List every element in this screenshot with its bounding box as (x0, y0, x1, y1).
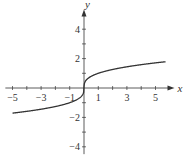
y-tick-label: 4 (75, 24, 80, 35)
x-axis-label: x (177, 82, 183, 94)
y-axis-arrow-icon (82, 9, 87, 16)
curve (13, 62, 166, 113)
x-tick-label: −1 (64, 92, 75, 103)
y-tick-label: 2 (75, 53, 80, 64)
axes (5, 9, 174, 154)
x-tick-label: 3 (124, 92, 129, 103)
x-tick-label: 5 (153, 92, 158, 103)
y-tick-label: −4 (69, 141, 80, 152)
tick-labels: −5−3−113542−2−4xy (7, 0, 182, 152)
function-plot: −5−3−113542−2−4xy (0, 0, 184, 159)
x-axis-arrow-icon (168, 86, 175, 91)
x-tick-label: −5 (7, 92, 18, 103)
cube-root-curve (13, 62, 166, 113)
y-axis-label: y (84, 0, 90, 10)
x-tick-label: −3 (36, 92, 47, 103)
y-tick-label: −2 (69, 112, 80, 123)
x-tick-label: 1 (96, 92, 101, 103)
